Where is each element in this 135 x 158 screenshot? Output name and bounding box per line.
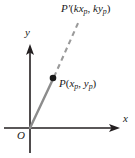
scaling-diagram-figure: P'(kxp, kyp) P(xp, yp) x y O: [0, 0, 135, 158]
ray-p-to-p-prime: [54, 21, 79, 77]
point-p-label: P(xp, yp): [59, 78, 96, 91]
point-p-marker: [50, 75, 57, 82]
x-axis-label: x: [123, 113, 128, 124]
p-name: P: [59, 77, 66, 89]
origin-label: O: [17, 130, 25, 141]
point-p-prime-label: P'(kxp, kyp): [61, 3, 110, 16]
p-prime-name: P: [61, 2, 68, 14]
p-prime-close-paren: ): [107, 2, 111, 14]
y-axis-label: y: [25, 27, 30, 38]
ray-origin-to-p: [30, 78, 54, 128]
p-close-paren: ): [93, 77, 97, 89]
